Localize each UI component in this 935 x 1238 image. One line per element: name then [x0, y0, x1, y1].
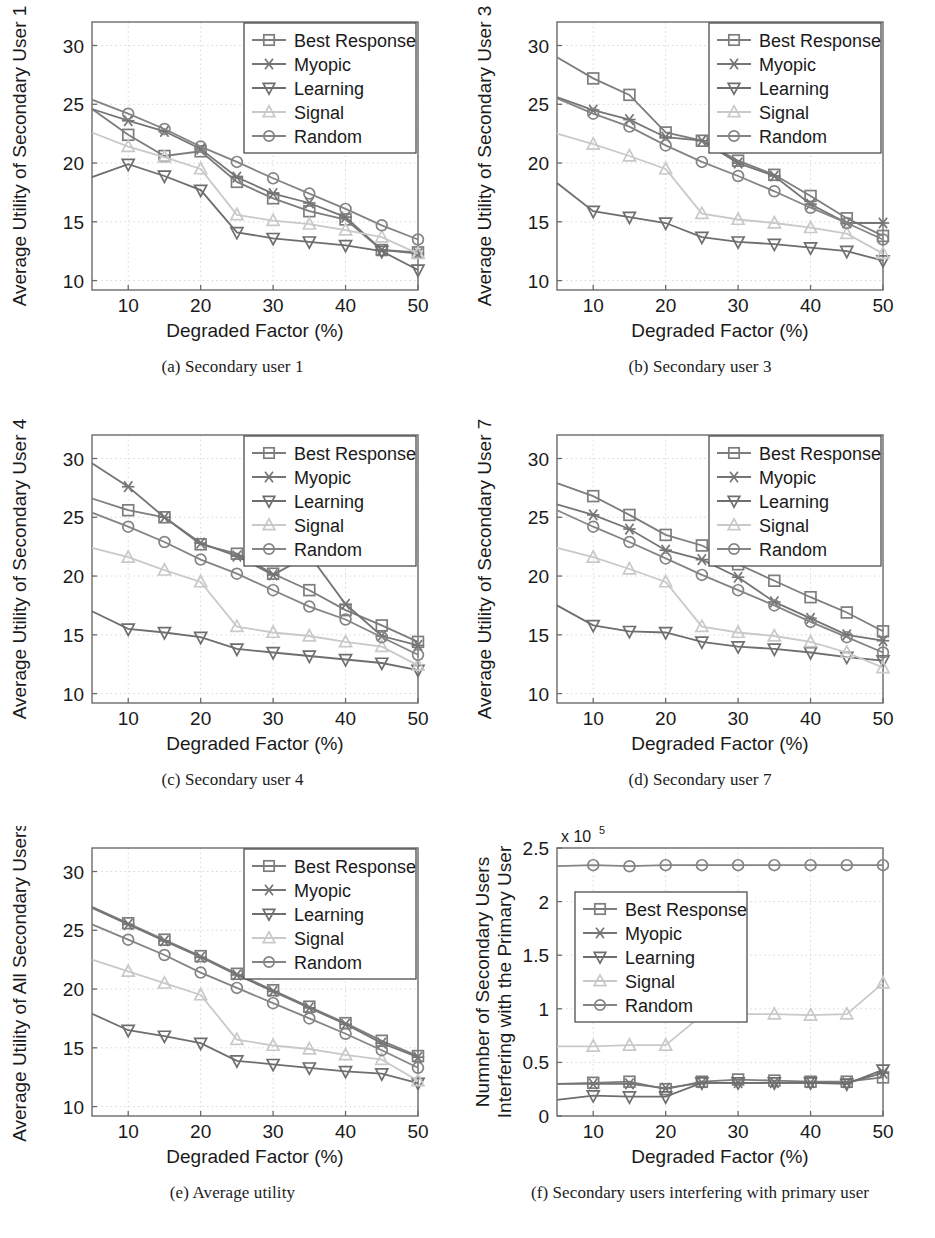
subplot-a: 1020304050Degraded Factor (%)1015202530A…: [0, 0, 465, 413]
y-tick-label: 25: [63, 920, 84, 941]
legend[interactable]: Best ResponseMyopicLearningSignalRandom: [244, 849, 416, 979]
y-tick-label: 2.5: [523, 838, 549, 859]
y-axis-exponent: x 10: [561, 828, 591, 845]
x-tick-label: 30: [728, 295, 749, 316]
x-tick-label: 40: [335, 1121, 356, 1142]
x-tick-label: 50: [407, 708, 428, 729]
legend-label: Random: [294, 953, 362, 973]
plot-b: 1020304050Degraded Factor (%)1015202530A…: [465, 0, 895, 352]
y-tick-label: 15: [528, 212, 549, 233]
legend-label: Best Response: [294, 31, 416, 51]
legend-label: Best Response: [625, 900, 747, 920]
legend[interactable]: Best ResponseMyopicLearningSignalRandom: [244, 23, 416, 153]
figure-grid: 1020304050Degraded Factor (%)1015202530A…: [0, 0, 935, 1238]
legend-label: Random: [294, 127, 362, 147]
series-line: [557, 1070, 883, 1100]
y-tick-label: 2: [538, 892, 549, 913]
legend-label: Myopic: [625, 924, 682, 944]
legend-label: Best Response: [294, 444, 416, 464]
series-learning: [557, 605, 889, 667]
y-axis-title: Average Utility of Secondary User 3: [474, 6, 495, 307]
legend-label: Myopic: [294, 55, 351, 75]
y-tick-label: 30: [528, 36, 549, 57]
caption-b: (b) Secondary user 3: [628, 357, 771, 377]
series-line: [92, 1014, 418, 1083]
series-line: [557, 605, 883, 660]
subplot-b: 1020304050Degraded Factor (%)1015202530A…: [465, 0, 935, 413]
x-tick-label: 10: [118, 1121, 139, 1142]
x-axis-title: Degraded Factor (%): [631, 1146, 808, 1167]
y-tick-label: 20: [63, 979, 84, 1000]
legend-label: Random: [759, 127, 827, 147]
legend-label: Random: [759, 540, 827, 560]
x-tick-label: 10: [583, 708, 604, 729]
x-tick-label: 30: [263, 295, 284, 316]
plot-d: 1020304050Degraded Factor (%)1015202530A…: [465, 413, 895, 765]
y-tick-label: 30: [63, 449, 84, 470]
legend-label: Learning: [294, 79, 364, 99]
x-tick-label: 50: [872, 1121, 893, 1142]
caption-f: (f) Secondary users interfering with pri…: [531, 1183, 869, 1203]
y-tick-label: 1.5: [523, 945, 549, 966]
x-tick-label: 30: [728, 1121, 749, 1142]
legend-label: Signal: [294, 929, 344, 949]
legend-label: Myopic: [759, 55, 816, 75]
y-tick-label: 10: [63, 271, 84, 292]
y-tick-label: 25: [63, 94, 84, 115]
series-line: [557, 865, 883, 866]
legend[interactable]: Best ResponseMyopicLearningSignalRandom: [575, 892, 747, 1022]
legend-label: Learning: [759, 79, 829, 99]
legend-label: Learning: [759, 492, 829, 512]
x-tick-label: 40: [335, 295, 356, 316]
legend[interactable]: Best ResponseMyopicLearningSignalRandom: [709, 23, 881, 153]
legend-label: Learning: [625, 948, 695, 968]
plot-area-b: 1020304050Degraded Factor (%)1015202530A…: [465, 0, 935, 355]
plot-area-f: 1020304050Degraded Factor (%)00.511.522.…: [465, 826, 935, 1181]
legend-label: Signal: [759, 103, 809, 123]
legend[interactable]: Best ResponseMyopicLearningSignalRandom: [709, 436, 881, 566]
series-learning: [557, 183, 889, 267]
y-tick-label: 30: [63, 36, 84, 57]
x-tick-label: 10: [118, 295, 139, 316]
x-tick-label: 50: [407, 1121, 428, 1142]
y-tick-label: 15: [63, 625, 84, 646]
x-tick-label: 20: [655, 1121, 676, 1142]
x-tick-label: 30: [263, 708, 284, 729]
legend-label: Best Response: [294, 857, 416, 877]
y-tick-label: 20: [528, 566, 549, 587]
y-tick-label: 10: [528, 684, 549, 705]
plot-e: 1020304050Degraded Factor (%)1015202530A…: [0, 826, 430, 1178]
y-axis-title: Average Utility of Secondary User 7: [474, 419, 495, 720]
x-tick-label: 30: [263, 1121, 284, 1142]
x-axis-title: Degraded Factor (%): [631, 733, 808, 754]
y-axis: 00.511.522.5: [523, 838, 562, 1127]
x-tick-label: 10: [583, 1121, 604, 1142]
y-tick-label: 10: [63, 684, 84, 705]
y-tick-label: 25: [63, 507, 84, 528]
x-tick-label: 20: [190, 295, 211, 316]
x-tick-label: 40: [800, 708, 821, 729]
y-tick-label: 20: [528, 153, 549, 174]
x-tick-label: 40: [335, 708, 356, 729]
y-tick-label: 1: [538, 999, 549, 1020]
legend-label: Signal: [294, 516, 344, 536]
y-tick-label: 25: [528, 94, 549, 115]
plot-area-a: 1020304050Degraded Factor (%)1015202530A…: [0, 0, 465, 355]
y-tick-label: 20: [63, 566, 84, 587]
y-axis-title: Average Utility of Secondary User 1: [9, 6, 30, 307]
legend-label: Signal: [759, 516, 809, 536]
x-axis-title: Degraded Factor (%): [166, 733, 343, 754]
y-tick-label: 15: [63, 212, 84, 233]
series-learning: [92, 1014, 424, 1090]
legend-label: Best Response: [759, 31, 881, 51]
plot-a: 1020304050Degraded Factor (%)1015202530A…: [0, 0, 430, 352]
legend-label: Myopic: [294, 468, 351, 488]
x-tick-label: 20: [655, 708, 676, 729]
x-axis-title: Degraded Factor (%): [631, 320, 808, 341]
x-tick-label: 50: [872, 295, 893, 316]
legend-label: Myopic: [294, 881, 351, 901]
legend-label: Myopic: [759, 468, 816, 488]
x-tick-label: 10: [583, 295, 604, 316]
legend[interactable]: Best ResponseMyopicLearningSignalRandom: [244, 436, 416, 566]
y-tick-label: 30: [528, 449, 549, 470]
